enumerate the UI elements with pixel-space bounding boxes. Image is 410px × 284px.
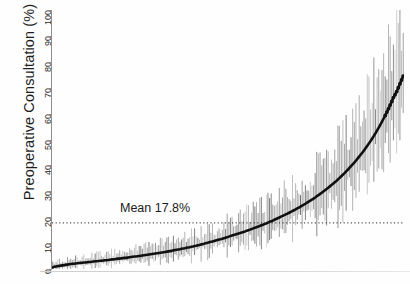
- y-tick-mark: [47, 10, 52, 11]
- chart-figure: Preoperative Consultation (%) 0102030405…: [0, 0, 410, 284]
- y-tick-mark: [47, 191, 52, 192]
- mean-annotation-label: Mean 17.8%: [120, 201, 190, 215]
- y-tick-mark: [47, 140, 52, 141]
- y-tick-mark: [47, 88, 52, 89]
- caterpillar-plot-svg: [52, 10, 404, 269]
- y-tick-mark: [47, 62, 52, 63]
- error-bars: [53, 10, 403, 269]
- y-tick-mark: [47, 243, 52, 244]
- bottom-rule: [40, 271, 410, 272]
- plot-area: [52, 10, 404, 269]
- y-axis-tick-labels: 0102030405060708090100: [26, 0, 48, 284]
- y-tick-mark: [47, 269, 52, 270]
- y-tick-mark: [47, 217, 52, 218]
- y-tick-mark: [47, 165, 52, 166]
- y-tick-mark: [47, 36, 52, 37]
- y-tick-mark: [47, 114, 52, 115]
